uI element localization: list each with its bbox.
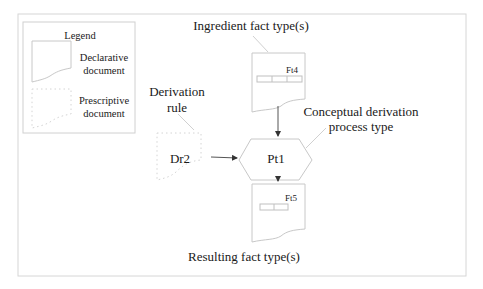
ingredient-fact-type-caption: Ingredient fact type(s) [184,18,318,33]
process-type-id: Pt1 [256,151,296,166]
derivation-rule-id: Dr2 [160,151,200,166]
legend-item-prescriptive-line1: Prescriptive [76,94,132,107]
process-type-caption-line2: process type [298,119,424,134]
legend-prescriptive-document-icon [32,89,71,128]
derivation-rule-caption-line1: Derivation [146,84,208,99]
resulting-fact-type-id: Ft5 [285,193,297,203]
derivation-rule-leader-line [178,114,194,130]
process-type-caption-line1: Conceptual derivation [298,104,424,119]
resulting-fact-type-caption: Resulting fact type(s) [179,249,309,264]
derivation-rule-caption-line2: rule [146,100,208,115]
resulting-fact-type-table-icon [260,204,288,210]
legend-item-declarative-line1: Declarative [78,51,130,64]
legend-item-prescriptive-line2: document [76,107,132,120]
legend-item-declarative-line2: document [78,64,130,77]
resulting-fact-type-document [252,184,305,242]
ingredient-fact-type-table-icon [257,76,302,82]
ingredient-fact-type-id: Ft4 [286,65,298,75]
ingredient-leader-line [253,36,268,52]
arrow-rule-to-process [211,157,237,158]
diagram-canvas [0,0,483,289]
legend-title: Legend [60,29,100,42]
legend-declarative-document-icon [32,41,71,82]
